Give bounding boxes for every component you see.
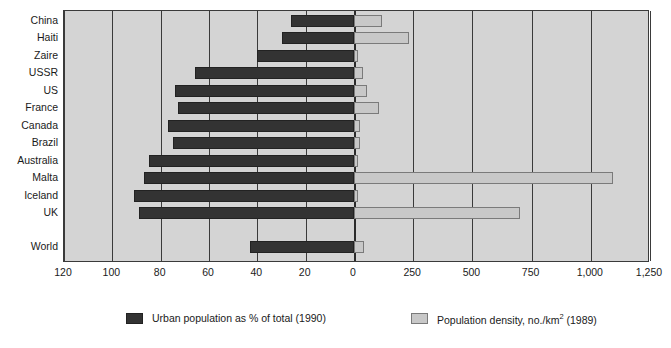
bar-density-us (354, 85, 367, 97)
gridline-right-250 (413, 11, 414, 261)
category-label-china: China (0, 15, 58, 26)
category-label-iceland: Iceland (0, 190, 58, 201)
tick-right-750: 750 (522, 266, 540, 278)
bar-density-world (354, 241, 364, 253)
bar-density-canada (354, 120, 360, 132)
gridline-left-120 (64, 11, 65, 261)
chart-legend: Urban population as % of total (1990) Po… (0, 306, 671, 332)
value-axis-labels: 1201008060402002505007501,0001,250 (0, 264, 671, 282)
bar-density-australia (354, 155, 358, 167)
gridline-right-1250 (650, 11, 651, 261)
gridline-right-750 (532, 11, 533, 261)
category-label-australia: Australia (0, 155, 58, 166)
bar-density-malta (354, 172, 613, 184)
legend-swatch-light (411, 313, 428, 324)
legend-item-urban-population: Urban population as % of total (1990) (126, 312, 326, 324)
gridline-left-20 (306, 11, 307, 261)
plot-area (63, 10, 649, 262)
gridline-left-0 (354, 11, 356, 261)
bar-urban-haiti (282, 32, 355, 44)
tick-left-120: 120 (54, 266, 72, 278)
bar-chart: ChinaHaitiZaireUSSRUSFranceCanadaBrazilA… (0, 0, 671, 348)
category-label-zaire: Zaire (0, 50, 58, 61)
bar-urban-uk (139, 207, 354, 219)
gridline-left-40 (257, 11, 258, 261)
bar-urban-us (175, 85, 354, 97)
bar-urban-france (178, 102, 354, 114)
tick-left-20: 20 (299, 266, 311, 278)
category-label-world: World (0, 241, 58, 252)
tick-left-60: 60 (202, 266, 214, 278)
bar-density-iceland (354, 190, 358, 202)
bar-urban-zaire (257, 50, 354, 62)
bar-density-uk (354, 207, 520, 219)
bar-density-china (354, 15, 382, 27)
bar-density-haiti (354, 32, 409, 44)
bar-urban-iceland (134, 190, 354, 202)
category-label-france: France (0, 102, 58, 113)
gridline-right-1000 (591, 11, 592, 261)
gridline-left-100 (112, 11, 113, 261)
legend-label-part-1: Population density, no./km (437, 314, 559, 326)
tick-left-40: 40 (250, 266, 262, 278)
bar-urban-canada (168, 120, 354, 132)
legend-label-part-2: (1989) (564, 314, 597, 326)
legend-label-urban-population: Urban population as % of total (1990) (152, 312, 326, 324)
category-label-canada: Canada (0, 120, 58, 131)
tick-right-1250: 1,250 (636, 266, 662, 278)
bar-urban-brazil (173, 137, 354, 149)
legend-label-population-density: Population density, no./km2 (1989) (437, 312, 597, 326)
bar-urban-china (291, 15, 354, 27)
category-label-uk: UK (0, 207, 58, 218)
bar-density-france (354, 102, 379, 114)
tick-left-80: 80 (154, 266, 166, 278)
gridline-left-80 (161, 11, 162, 261)
bar-urban-malta (144, 172, 354, 184)
legend-swatch-dark (126, 313, 143, 324)
bar-urban-ussr (195, 67, 355, 79)
category-label-haiti: Haiti (0, 32, 58, 43)
tick-right-500: 500 (463, 266, 481, 278)
bar-density-ussr (354, 67, 363, 79)
tick-right-250: 250 (403, 266, 421, 278)
bar-density-zaire (354, 50, 358, 62)
tick-left-0: 0 (350, 266, 356, 278)
category-axis-labels: ChinaHaitiZaireUSSRUSFranceCanadaBrazilA… (0, 10, 58, 262)
category-label-ussr: USSR (0, 67, 58, 78)
tick-right-1000: 1,000 (577, 266, 603, 278)
bar-urban-australia (149, 155, 354, 167)
tick-left-100: 100 (103, 266, 121, 278)
gridline-right-500 (472, 11, 473, 261)
bar-urban-world (250, 241, 354, 253)
gridline-left-60 (209, 11, 210, 261)
category-label-brazil: Brazil (0, 137, 58, 148)
bar-density-brazil (354, 137, 360, 149)
legend-item-population-density: Population density, no./km2 (1989) (411, 312, 597, 326)
category-label-us: US (0, 85, 58, 96)
category-label-malta: Malta (0, 172, 58, 183)
